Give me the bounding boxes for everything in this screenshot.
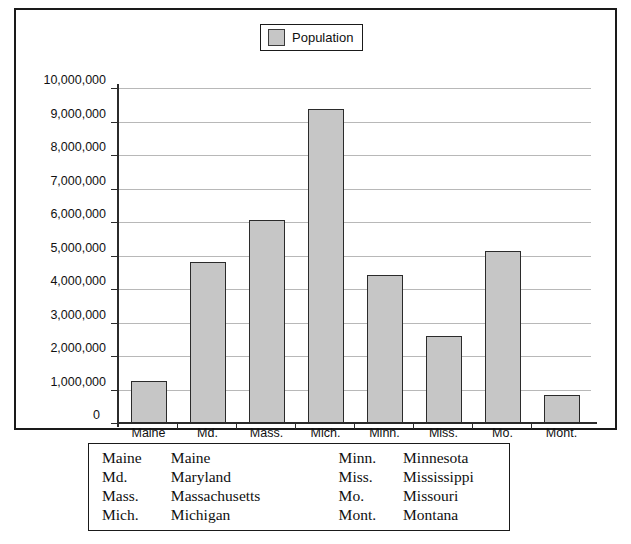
y-axis-tick-label: 3,000,000 xyxy=(50,308,106,322)
abbreviation-value: Missouri xyxy=(403,486,509,505)
bar-slot xyxy=(473,88,532,423)
abbreviation-row: Mass.MassachusettsMo.Missouri xyxy=(89,486,509,505)
bar-slot xyxy=(355,88,414,423)
y-axis-tick-label: 0 xyxy=(93,408,100,422)
bar-slot xyxy=(178,88,237,423)
abbreviation-key: Md. xyxy=(89,467,171,486)
abbreviation-key: Mo. xyxy=(339,486,403,505)
bar-slot xyxy=(237,88,296,423)
abbreviation-key: Maine xyxy=(89,448,171,467)
y-axis-tick-label: 1,000,000 xyxy=(50,375,106,389)
x-axis-tick-label: Mont. xyxy=(532,426,591,444)
chart-frame: Population 10,000,0009,000,0008,000,0007… xyxy=(14,8,617,430)
bar-mo xyxy=(485,251,521,423)
abbreviation-row: Md.MarylandMiss.Mississippi xyxy=(89,467,509,486)
bar-slot xyxy=(532,88,591,423)
y-axis-labels: 10,000,0009,000,0008,000,0007,000,0006,0… xyxy=(16,10,114,432)
bar-mass xyxy=(249,220,285,423)
abbreviation-key: Mont. xyxy=(339,505,403,524)
bar-maine xyxy=(131,381,167,423)
bar-series-population xyxy=(119,88,591,423)
y-axis-tick-label: 4,000,000 xyxy=(50,274,106,288)
abbreviation-value: Massachusetts xyxy=(171,486,339,505)
y-axis-tick-label: 5,000,000 xyxy=(50,241,106,255)
abbreviation-key: Mich. xyxy=(89,505,171,524)
abbreviation-key: Minn. xyxy=(339,448,403,467)
bar-mich xyxy=(308,109,344,423)
y-axis-tick-label: 2,000,000 xyxy=(50,341,106,355)
bar-slot xyxy=(119,88,178,423)
abbreviation-table: MaineMaineMinn.MinnesotaMd.MarylandMiss.… xyxy=(88,443,510,531)
x-axis-tick-label: Mich. xyxy=(296,426,355,444)
x-axis-tick-label: Minn. xyxy=(355,426,414,444)
abbreviation-value: Montana xyxy=(403,505,509,524)
abbreviation-value: Maryland xyxy=(171,467,339,486)
y-axis-tick-label: 9,000,000 xyxy=(50,107,106,121)
plot-area xyxy=(119,88,591,423)
abbreviation-key: Miss. xyxy=(339,467,403,486)
abbreviation-value: Minnesota xyxy=(403,448,509,467)
bar-md xyxy=(190,262,226,423)
bar-slot xyxy=(414,88,473,423)
x-axis-tick-label: Maine xyxy=(119,426,178,444)
bar-miss xyxy=(426,336,462,423)
abbreviation-key: Mass. xyxy=(89,486,171,505)
legend-label-population: Population xyxy=(292,30,353,45)
bar-slot xyxy=(296,88,355,423)
x-axis-tick-label: Mo. xyxy=(473,426,532,444)
legend-swatch-population xyxy=(268,29,285,46)
y-axis-tick-label: 10,000,000 xyxy=(43,73,106,87)
y-axis-tick-label: 6,000,000 xyxy=(50,207,106,221)
bar-mont xyxy=(544,395,580,423)
abbreviation-value: Michigan xyxy=(171,505,339,524)
abbreviation-row: Mich.MichiganMont.Montana xyxy=(89,505,509,524)
x-axis-labels: MaineMd.Mass.Mich.Minn.Miss.Mo.Mont. xyxy=(119,426,591,444)
chart-legend: Population xyxy=(260,24,363,51)
y-axis-tick-label: 7,000,000 xyxy=(50,174,106,188)
abbreviation-value: Mississippi xyxy=(403,467,509,486)
x-axis-tick-label: Miss. xyxy=(414,426,473,444)
y-axis-tick-label: 8,000,000 xyxy=(50,140,106,154)
abbreviation-value: Maine xyxy=(171,448,339,467)
x-axis-tick-label: Md. xyxy=(178,426,237,444)
bar-minn xyxy=(367,275,403,423)
x-axis-tick-label: Mass. xyxy=(237,426,296,444)
abbreviation-row: MaineMaineMinn.Minnesota xyxy=(89,448,509,467)
